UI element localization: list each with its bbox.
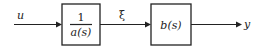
output-label: y — [243, 18, 251, 31]
block-diagram: u 1 a(s) ξ b(s) y — [0, 0, 260, 55]
output-arrow-icon — [236, 22, 242, 28]
block-1-numerator: 1 — [78, 11, 85, 24]
block-1-denominator: a(s) — [71, 26, 92, 39]
intermediate-label: ξ — [119, 9, 125, 22]
block-2-label: b(s) — [160, 19, 181, 32]
input-arrow-icon — [56, 22, 62, 28]
intermediate-arrow-icon — [145, 22, 151, 28]
input-label: u — [17, 9, 24, 22]
